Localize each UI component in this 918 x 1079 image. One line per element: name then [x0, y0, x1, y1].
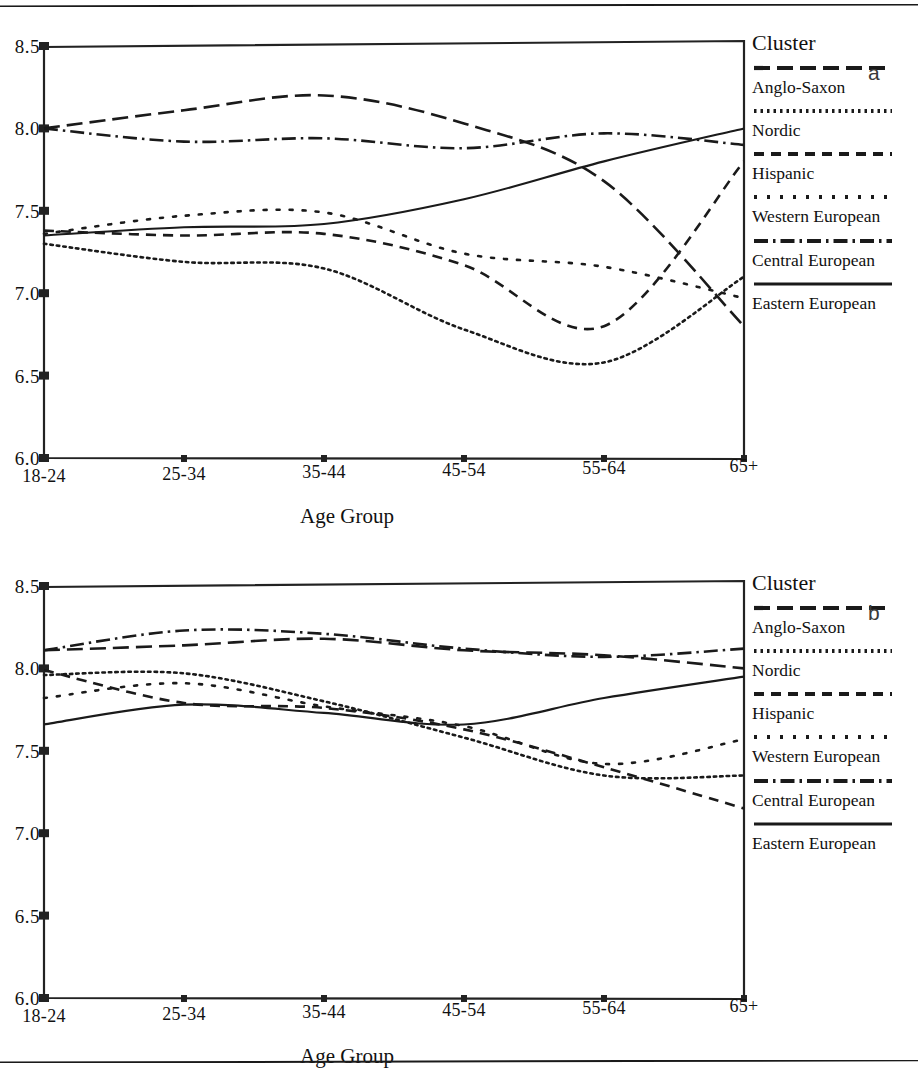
series-line-central-european	[44, 128, 744, 148]
legend-label: Central European	[752, 790, 918, 810]
series-line-western-european	[44, 683, 744, 764]
legend-line-sample-dash-dot	[752, 233, 900, 249]
legend-label: Hispanic	[752, 163, 918, 183]
x-tick-label: 35-44	[294, 1003, 354, 1021]
legend-line-sample-sparse-dot	[752, 729, 900, 745]
x-tick-label: 65+	[714, 457, 774, 475]
legend-label: Nordic	[752, 660, 918, 680]
chart-panel-a: 8.58.07.57.06.56.018-2425-3435-4445-5455…	[0, 6, 918, 545]
legend-label: Eastern European	[752, 833, 918, 853]
y-tick-label: 6.5	[0, 907, 40, 926]
legend-label: Anglo-Saxon	[752, 617, 918, 637]
panel-letter: a	[868, 62, 880, 83]
legend: ClusterAnglo-SaxonNordicHispanicWestern …	[752, 572, 918, 859]
legend-label: Nordic	[752, 120, 918, 140]
series-line-nordic	[44, 672, 744, 779]
x-tick-label: 25-34	[154, 465, 214, 483]
legend-title: Cluster	[752, 572, 918, 594]
legend-item-western-european[interactable]: Western European	[752, 189, 918, 226]
x-tick-label: 45-54	[434, 461, 494, 479]
legend-item-anglo-saxon[interactable]: Anglo-Saxon	[752, 60, 918, 97]
legend: ClusterAnglo-SaxonNordicHispanicWestern …	[752, 32, 918, 319]
x-tick-label: 55-64	[574, 999, 634, 1017]
legend-line-sample-fine-dot	[752, 643, 900, 659]
legend-line-sample-medium-dash	[752, 146, 900, 162]
legend-item-anglo-saxon[interactable]: Anglo-Saxon	[752, 600, 918, 637]
series-line-nordic	[44, 244, 744, 364]
x-tick-label: 18-24	[14, 467, 74, 485]
y-tick-label: 7.0	[0, 284, 40, 303]
y-tick-label: 6.5	[0, 367, 40, 386]
series-line-hispanic	[44, 670, 744, 808]
x-tick-label: 35-44	[294, 463, 354, 481]
y-tick-label: 7.0	[0, 824, 40, 843]
legend-item-hispanic[interactable]: Hispanic	[752, 686, 918, 723]
legend-line-sample-sparse-dot	[752, 189, 900, 205]
plot-area	[0, 6, 760, 506]
legend-line-sample-solid	[752, 276, 900, 292]
x-tick-label: 45-54	[434, 1001, 494, 1019]
legend-line-sample-solid	[752, 816, 900, 832]
x-tick-label: 18-24	[14, 1007, 74, 1025]
chart-panel-b: 8.58.07.57.06.56.018-2425-3435-4445-5455…	[0, 546, 918, 1079]
x-axis-title: Age Group	[300, 1046, 394, 1067]
x-tick-label: 25-34	[154, 1005, 214, 1023]
legend-line-sample-dash-dot	[752, 773, 900, 789]
y-tick-label: 8.0	[0, 659, 40, 678]
legend-item-hispanic[interactable]: Hispanic	[752, 146, 918, 183]
page-rule-bottom	[0, 1060, 918, 1063]
legend-label: Anglo-Saxon	[752, 77, 918, 97]
x-axis-title: Age Group	[300, 506, 394, 527]
series-line-western-european	[44, 210, 744, 298]
y-tick-label: 7.5	[0, 742, 40, 761]
data-series-group	[44, 95, 744, 364]
legend-label: Eastern European	[752, 293, 918, 313]
legend-line-sample-fine-dot	[752, 103, 900, 119]
legend-item-central-european[interactable]: Central European	[752, 773, 918, 810]
x-tick-label: 55-64	[574, 459, 634, 477]
legend-label: Hispanic	[752, 703, 918, 723]
y-tick-label: 7.5	[0, 202, 40, 221]
series-line-anglo-saxon	[44, 639, 744, 669]
legend-line-sample-medium-dash	[752, 686, 900, 702]
y-tick-label: 8.0	[0, 119, 40, 138]
legend-title: Cluster	[752, 32, 918, 54]
data-series-group	[44, 629, 744, 808]
legend-item-eastern-european[interactable]: Eastern European	[752, 276, 918, 313]
legend-item-nordic[interactable]: Nordic	[752, 103, 918, 140]
legend-label: Central European	[752, 250, 918, 270]
legend-label: Western European	[752, 206, 918, 226]
x-tick-label: 65+	[714, 997, 774, 1015]
plot-area	[0, 546, 760, 1046]
legend-item-central-european[interactable]: Central European	[752, 233, 918, 270]
y-tick-label: 8.5	[0, 577, 40, 596]
panel-letter: b	[868, 602, 880, 623]
legend-item-eastern-european[interactable]: Eastern European	[752, 816, 918, 853]
y-tick-label: 8.5	[0, 37, 40, 56]
legend-item-western-european[interactable]: Western European	[752, 729, 918, 766]
series-line-anglo-saxon	[44, 95, 744, 326]
series-line-hispanic	[44, 161, 744, 329]
legend-label: Western European	[752, 746, 918, 766]
legend-item-nordic[interactable]: Nordic	[752, 643, 918, 680]
